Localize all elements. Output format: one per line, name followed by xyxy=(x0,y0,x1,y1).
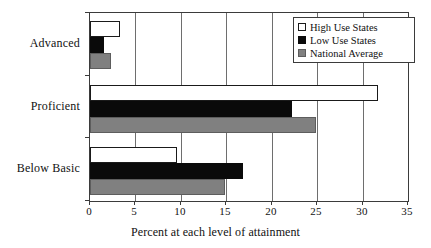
xtick-label-25: 25 xyxy=(296,205,336,218)
legend-label-national-average: National Average xyxy=(310,48,383,59)
bar-group-below-basic xyxy=(90,147,408,197)
bar-group-proficient xyxy=(90,85,408,135)
chart-legend: High Use States Low Use States National … xyxy=(293,17,415,63)
legend-label-low-use-states: Low Use States xyxy=(310,35,376,46)
ytick-label-proficient: Proficient xyxy=(0,99,80,113)
bar-proficient-national-average xyxy=(90,117,316,133)
legend-label-high-use-states: High Use States xyxy=(310,22,378,33)
bar-advanced-low-use-states xyxy=(90,37,104,53)
ytick-mark-3 xyxy=(85,200,89,201)
xtick-label-10: 10 xyxy=(160,205,200,218)
bar-advanced-national-average xyxy=(90,53,111,69)
ytick-mark-0 xyxy=(85,12,89,13)
xtick-label-15: 15 xyxy=(205,205,245,218)
bar-proficient-low-use-states xyxy=(90,101,292,117)
ytick-label-advanced: Advanced xyxy=(0,36,80,50)
legend-item-national-average: National Average xyxy=(298,47,410,59)
bar-advanced-high-use-states xyxy=(90,21,120,37)
legend-swatch-icon-low-use-states xyxy=(298,36,306,44)
xtick-label-20: 20 xyxy=(251,205,291,218)
bar-proficient-high-use-states xyxy=(90,85,378,101)
legend-item-low-use-states: Low Use States xyxy=(298,34,410,46)
ytick-mark-1 xyxy=(85,75,89,76)
xtick-label-0: 0 xyxy=(69,205,109,218)
x-axis-title: Percent at each level of attainment xyxy=(0,225,431,240)
ytick-mark-2 xyxy=(85,137,89,138)
legend-swatch-icon-national-average xyxy=(298,49,306,57)
xtick-label-5: 5 xyxy=(114,205,154,218)
bar-below-basic-high-use-states xyxy=(90,147,177,163)
legend-item-high-use-states: High Use States xyxy=(298,21,410,33)
xtick-label-35: 35 xyxy=(387,205,427,218)
xtick-label-30: 30 xyxy=(342,205,382,218)
bar-below-basic-low-use-states xyxy=(90,163,243,179)
legend-swatch-icon-high-use-states xyxy=(298,23,306,31)
bar-below-basic-national-average xyxy=(90,179,225,195)
bar-chart: 0 5 10 15 20 25 30 35 Advanced Proficien… xyxy=(0,0,431,248)
ytick-label-below-basic: Below Basic xyxy=(0,161,80,175)
